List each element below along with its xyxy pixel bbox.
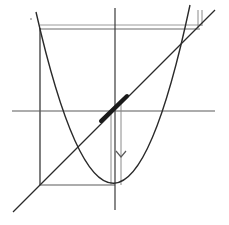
parabola-diagram (0, 0, 229, 225)
stray-dot (30, 18, 32, 20)
